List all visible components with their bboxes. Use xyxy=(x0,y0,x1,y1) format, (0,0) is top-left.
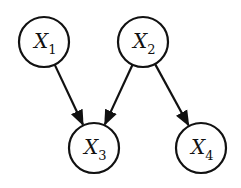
node-x4: X4 xyxy=(176,123,226,173)
node-x3: X3 xyxy=(69,123,119,173)
arrow-line xyxy=(155,64,189,125)
arrow-line xyxy=(105,65,133,125)
edge-x2-to-x4 xyxy=(155,64,189,125)
node-x2: X2 xyxy=(118,17,168,67)
bayesian-network-diagram: X1X2X3X4 xyxy=(0,0,241,188)
node-x1: X1 xyxy=(19,17,69,67)
edge-x2-to-x3 xyxy=(105,65,133,125)
edge-x1-to-x3 xyxy=(55,65,83,125)
arrow-line xyxy=(55,65,83,125)
